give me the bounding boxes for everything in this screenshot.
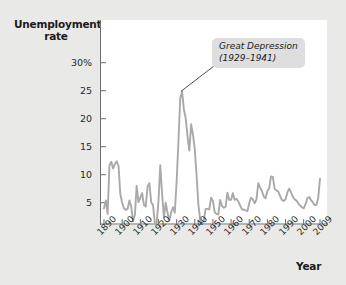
y-axis-tick-label: 5 bbox=[50, 197, 92, 208]
x-axis-title: Year bbox=[296, 260, 321, 272]
annotation-line-1: Great Depression bbox=[219, 41, 298, 53]
unemployment-rate-chart: Unemployment rate 30%252015105 189019001… bbox=[0, 0, 346, 285]
y-axis-tick-label: 30% bbox=[50, 57, 92, 68]
y-axis-tick-label: 10 bbox=[50, 169, 92, 180]
great-depression-annotation: Great Depression (1929–1941) bbox=[212, 38, 305, 68]
y-axis-tick-label: 20 bbox=[50, 113, 92, 124]
y-axis-title-line-1: Unemployment bbox=[14, 18, 98, 30]
y-axis-tick-label: 15 bbox=[50, 141, 92, 152]
y-axis-tick-label: 25 bbox=[50, 85, 92, 96]
annotation-line-2: (1929–1941) bbox=[219, 53, 298, 65]
y-axis-title-line-2: rate bbox=[14, 30, 98, 42]
y-axis-title: Unemployment rate bbox=[14, 18, 98, 42]
x-axis-tick-label: 1890 bbox=[95, 214, 118, 237]
unemployment-rate-line bbox=[104, 91, 320, 224]
